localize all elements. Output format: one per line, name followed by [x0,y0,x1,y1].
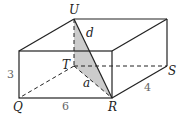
dimension-height: 3 [7,69,14,80]
vertex-label-q: Q [13,101,23,113]
segment-label-a: a [83,77,90,89]
vertex-label-s: S [168,65,176,77]
box-diagram [0,0,182,120]
vertex-label-u: U [69,4,79,16]
dimension-length: 6 [62,101,69,112]
vertex-label-t: T [62,59,70,71]
segment-label-d: d [86,27,94,39]
dimension-width: 4 [144,82,151,93]
vertex-label-r: R [108,101,117,113]
